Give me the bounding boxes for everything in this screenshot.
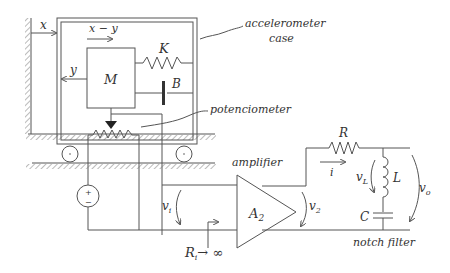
wheel-right xyxy=(176,146,192,162)
ground-lower xyxy=(26,163,216,169)
ri-label: Ri→ ∞ xyxy=(184,245,223,262)
case-leader-line xyxy=(200,26,243,39)
current-label: i xyxy=(330,166,334,179)
vi-label: vi xyxy=(162,199,172,215)
spring-label: K xyxy=(158,41,170,56)
x-displacement-arrow: x xyxy=(31,18,56,33)
accelerometer-circuit-diagram: x accelerometer case x − y M y K B poten… xyxy=(0,0,450,273)
vl-label: vL xyxy=(356,170,368,186)
vl-arrow xyxy=(371,160,375,192)
damper-label: B xyxy=(171,77,181,91)
svg-text:A2: A2 xyxy=(248,206,264,223)
voltage-source: + − xyxy=(77,170,99,230)
v2-label: v2 xyxy=(309,199,321,215)
wheel-left xyxy=(62,146,78,162)
inductor-label: L xyxy=(392,171,401,185)
vo-label: vo xyxy=(419,181,431,197)
wall xyxy=(25,18,31,134)
potentiometer xyxy=(88,108,162,235)
inductor-l: L xyxy=(383,148,401,212)
mass-label: M xyxy=(103,72,118,87)
potentiometer-label: potenciometer xyxy=(210,103,292,116)
case-label-line1: accelerometer xyxy=(245,17,326,30)
ground xyxy=(26,134,216,140)
damper-b: B xyxy=(135,77,193,105)
resistor-label: R xyxy=(338,126,348,140)
vi-arrow xyxy=(176,190,181,224)
amplifier-label: amplifier xyxy=(232,156,283,169)
vo-arrow xyxy=(410,155,419,221)
plus-sign: + xyxy=(85,188,92,197)
capacitor-label: C xyxy=(360,210,369,224)
potentiometer-leader-line xyxy=(141,111,208,127)
minus-sign: − xyxy=(85,198,92,207)
spring-k: K xyxy=(135,41,193,69)
v2-arrow xyxy=(301,192,306,226)
capacitor-c: C xyxy=(360,210,393,230)
case-label-line2: case xyxy=(269,32,294,45)
notch-filter-label: notch filter xyxy=(353,236,416,249)
resistor-r: R xyxy=(327,126,410,154)
x-minus-y-label: x − y xyxy=(89,22,118,35)
y-label: y xyxy=(69,63,77,77)
x-label: x xyxy=(40,18,47,32)
